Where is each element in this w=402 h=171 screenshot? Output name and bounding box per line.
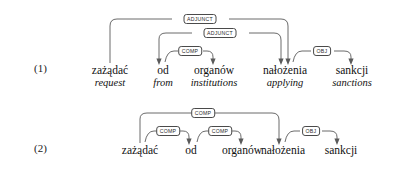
word-gloss: from <box>153 77 172 89</box>
word-column-ex2-1: zażądać <box>122 144 158 157</box>
word-form: nałożenia <box>261 144 305 157</box>
word-column-ex2-5: sankcji <box>325 144 358 157</box>
word-form: od <box>153 64 172 77</box>
word-form: od <box>185 144 197 157</box>
word-form: nałożenia <box>263 64 307 77</box>
dependency-diagram-figure: ADJUNCT ADJUNCT COMP OBJ COMP COMP COMP … <box>0 0 402 171</box>
arc-label-ex1-comp: COMP <box>178 46 202 56</box>
example-number-2: (2) <box>34 142 47 154</box>
word-column-ex1-5: sankcji sanctions <box>332 64 372 89</box>
word-form: organów <box>222 144 262 157</box>
arc-label-ex2-comp-3: COMP <box>208 126 232 136</box>
arc-label-ex1-adjunct-2: ADJUNCT <box>204 28 237 38</box>
word-form: sankcji <box>332 64 372 77</box>
arc-ex1-adjunct-zazadac-nalozenia <box>110 19 291 65</box>
word-column-ex2-4: nałożenia <box>261 144 305 157</box>
word-column-ex1-2: od from <box>153 64 172 89</box>
example-number-1: (1) <box>34 62 47 74</box>
arc-label-ex2-comp-1: COMP <box>191 108 215 118</box>
arc-label-ex1-obj: OBJ <box>313 46 331 56</box>
word-gloss: request <box>92 77 128 89</box>
arc-path <box>197 131 209 142</box>
arc-path <box>334 51 351 60</box>
arc-path <box>293 51 311 62</box>
word-form: organów <box>191 64 238 77</box>
arc-label-ex2-obj: OBJ <box>302 126 320 136</box>
word-form: sankcji <box>325 144 358 157</box>
word-column-ex1-4: nałożenia applying <box>263 64 307 89</box>
word-form: zażądać <box>122 144 158 157</box>
arc-label-ex2-comp-2: COMP <box>156 126 180 136</box>
word-gloss: sanctions <box>332 77 372 89</box>
word-column-ex2-2: od <box>185 144 197 157</box>
arc-path <box>249 33 281 60</box>
arc-path <box>110 19 172 63</box>
arc-path <box>229 19 288 60</box>
arc-path <box>145 131 157 142</box>
word-column-ex1-3: organów institutions <box>191 64 238 89</box>
word-column-ex2-3: organów <box>222 144 262 157</box>
word-gloss: institutions <box>191 77 238 89</box>
word-gloss: applying <box>263 77 307 89</box>
arc-label-ex1-adjunct-1: ADJUNCT <box>184 14 217 24</box>
arc-path <box>285 131 300 142</box>
word-form: zażądać <box>92 64 128 77</box>
word-column-ex1-1: zażądać request <box>92 64 128 89</box>
arc-path <box>165 51 178 62</box>
